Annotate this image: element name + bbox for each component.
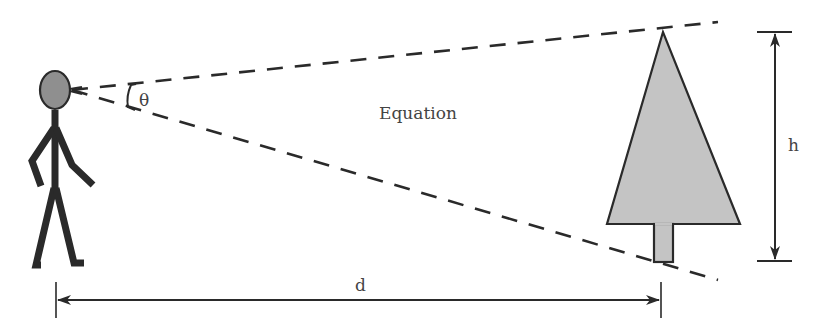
- height-dimension: [757, 32, 792, 261]
- angle-label: θ: [139, 90, 149, 110]
- tree-trunk: [654, 224, 673, 262]
- person-left-leg: [36, 188, 54, 265]
- diagram-canvas: θ h: [0, 0, 822, 330]
- tree-crown: [607, 32, 740, 224]
- tree: [607, 32, 740, 262]
- diagram-svg: θ h: [0, 0, 822, 330]
- person-head: [40, 71, 70, 109]
- person-right-arm: [56, 128, 93, 185]
- angle-arc-icon: [127, 84, 136, 110]
- person-figure: [32, 87, 93, 265]
- distance-label: d: [355, 275, 366, 295]
- person-left-arm: [32, 128, 54, 186]
- equation-label: Equation: [379, 103, 457, 123]
- sight-lines: [72, 22, 718, 280]
- person-right-leg: [56, 188, 84, 263]
- sight-line-upper: [72, 22, 718, 90]
- height-label: h: [788, 135, 799, 155]
